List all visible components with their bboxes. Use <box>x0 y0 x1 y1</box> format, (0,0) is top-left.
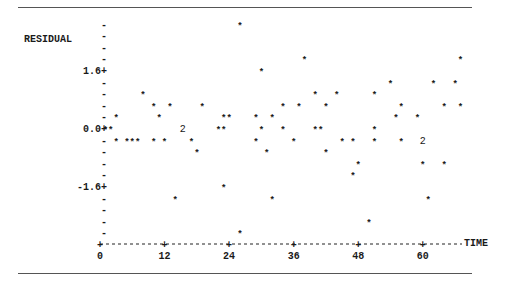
data-point: * <box>296 103 301 113</box>
x-tick-label: 0 <box>97 251 103 262</box>
data-point: * <box>167 103 172 113</box>
residual-plot: -----1.6+----0.0+----1.6+---- +0+12+24+3… <box>0 0 511 281</box>
data-point: * <box>323 149 328 159</box>
y-tick-mark: - <box>101 205 107 216</box>
x-tick-mark: + <box>420 240 426 251</box>
data-point: * <box>339 138 344 148</box>
data-point: * <box>221 184 226 194</box>
data-point: * <box>253 114 258 124</box>
data-point: * <box>415 114 420 124</box>
y-tick-mark: - <box>101 228 107 239</box>
data-point: * <box>452 80 457 90</box>
data-point: * <box>264 149 269 159</box>
data-point: * <box>113 114 118 124</box>
data-point: * <box>442 103 447 113</box>
data-point: * <box>420 161 425 171</box>
data-points: **************2*************************… <box>103 22 463 241</box>
data-point: * <box>393 114 398 124</box>
data-point: * <box>334 91 339 101</box>
data-point: * <box>189 138 194 148</box>
data-point: * <box>135 138 140 148</box>
data-point: * <box>350 172 355 182</box>
data-point: * <box>269 114 274 124</box>
x-tick-label: 24 <box>223 251 235 262</box>
y-tick-mark: - <box>101 217 107 228</box>
data-point: * <box>350 138 355 148</box>
data-point: * <box>200 103 205 113</box>
y-tick-mark: - <box>101 194 107 205</box>
x-tick-label: 48 <box>352 251 364 262</box>
data-point: * <box>151 138 156 148</box>
data-point: * <box>399 138 404 148</box>
x-tick-mark: + <box>291 240 297 251</box>
data-point: * <box>113 138 118 148</box>
data-point: * <box>366 219 371 229</box>
data-point: * <box>372 91 377 101</box>
data-point: * <box>259 68 264 78</box>
x-tick-mark: + <box>355 240 361 251</box>
data-point: * <box>318 126 323 136</box>
data-point: * <box>399 103 404 113</box>
data-point: * <box>372 126 377 136</box>
data-point: * <box>425 196 430 206</box>
data-point: * <box>356 161 361 171</box>
data-point: * <box>458 56 463 66</box>
data-point: * <box>151 103 156 113</box>
data-point: * <box>269 196 274 206</box>
y-tick-mark: - <box>101 170 107 181</box>
x-tick-label: 36 <box>288 251 300 262</box>
data-point: * <box>323 103 328 113</box>
data-point-count: 2 <box>180 124 186 135</box>
y-tick-label: -1.6+ <box>77 182 107 193</box>
x-axis: +0+12+24+36+48+60 <box>97 240 462 263</box>
y-tick-mark: - <box>101 159 107 170</box>
data-point: * <box>108 126 113 136</box>
data-point: * <box>458 103 463 113</box>
data-point: * <box>291 138 296 148</box>
data-point: * <box>253 138 258 148</box>
y-tick-mark: - <box>101 136 107 147</box>
data-point: * <box>280 126 285 136</box>
y-tick-mark: - <box>101 43 107 54</box>
data-point: * <box>280 103 285 113</box>
data-point: * <box>431 80 436 90</box>
data-point: * <box>442 161 447 171</box>
y-tick-mark: - <box>101 78 107 89</box>
data-point: * <box>162 138 167 148</box>
data-point: * <box>259 126 264 136</box>
y-tick-mark: - <box>101 31 107 42</box>
y-tick-mark: - <box>101 20 107 31</box>
data-point: * <box>312 91 317 101</box>
x-tick-mark: + <box>97 240 103 251</box>
x-tick-mark: + <box>226 240 232 251</box>
data-point: * <box>372 138 377 148</box>
y-tick-label: 1.6+ <box>83 66 107 77</box>
y-tick-mark: - <box>101 101 107 112</box>
data-point: * <box>221 126 226 136</box>
data-point: * <box>194 149 199 159</box>
data-point: * <box>140 91 145 101</box>
x-axis-label: TIME <box>464 238 488 249</box>
y-axis-label: RESIDUAL <box>24 34 72 45</box>
y-tick-mark: - <box>101 89 107 100</box>
y-tick-mark: - <box>101 147 107 158</box>
data-point: * <box>388 80 393 90</box>
data-point: * <box>173 196 178 206</box>
x-tick-label: 12 <box>159 251 171 262</box>
data-point: * <box>302 56 307 66</box>
y-tick-mark: - <box>101 112 107 123</box>
data-point: * <box>237 230 242 240</box>
y-tick-mark: - <box>101 54 107 65</box>
x-tick-mark: + <box>162 240 168 251</box>
data-point: * <box>226 114 231 124</box>
data-point: * <box>237 22 242 32</box>
data-point: * <box>156 114 161 124</box>
x-tick-label: 60 <box>417 251 429 262</box>
data-point-count: 2 <box>420 136 426 147</box>
